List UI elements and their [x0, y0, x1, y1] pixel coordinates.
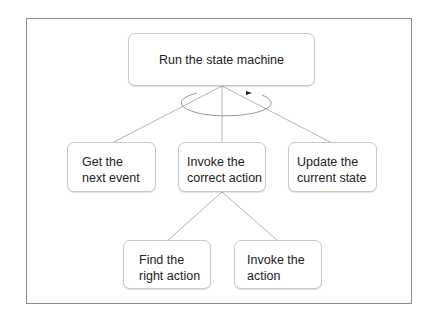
edge-invoke-action	[222, 192, 278, 241]
node-label: Get the next event	[82, 154, 155, 186]
node-label: Invoke the action	[247, 252, 321, 284]
node-label: Invoke the correct action	[187, 154, 265, 186]
node-invoke-correct-action: Invoke the correct action	[178, 142, 266, 192]
node-invoke-action: Invoke the action	[234, 240, 322, 289]
node-run-state-machine: Run the state machine	[128, 33, 315, 86]
node-label: Run the state machine	[159, 52, 284, 68]
node-label: Find the right action	[139, 252, 210, 284]
edge-invoke-find	[167, 192, 222, 241]
node-label: Update the current state	[297, 154, 376, 186]
node-update-current-state: Update the current state	[288, 142, 377, 192]
node-find-right-action: Find the right action	[123, 240, 211, 289]
node-get-event: Get the next event	[67, 142, 156, 192]
edge-root-update-state	[222, 86, 332, 143]
loop-arrowhead-icon	[246, 91, 252, 95]
